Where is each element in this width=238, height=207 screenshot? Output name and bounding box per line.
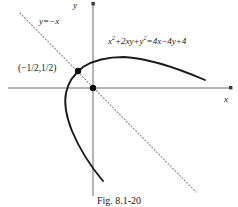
x-axis-end-marker [229, 86, 232, 89]
parabola-curve [65, 57, 205, 181]
point-marker-origin [90, 85, 96, 91]
plot-canvas [0, 0, 238, 207]
equation-term-4: =4x−4y+4 [147, 36, 187, 46]
equation-term-2: +2xy+ [115, 36, 140, 46]
figure-container: y x y=−x x2+2xy+y2=4x−4y+4 (−1/2,1/2) Fi… [0, 0, 238, 207]
point-label-a: (−1/2,1/2) [18, 64, 56, 74]
y-axis-end-marker [91, 2, 94, 5]
figure-caption: Fig. 8.1-20 [0, 196, 238, 206]
x-axis-label: x [224, 95, 228, 104]
asymptote-label: y=−x [39, 17, 59, 26]
y-axis-label: y [73, 1, 77, 10]
curve-equation-label: x2+2xy+y2=4x−4y+4 [108, 36, 186, 46]
point-marker-a [75, 68, 81, 74]
